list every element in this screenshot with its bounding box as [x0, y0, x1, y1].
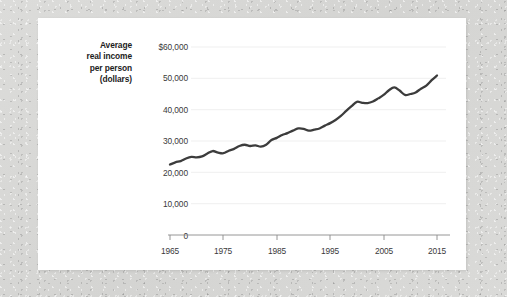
income-line-series [170, 76, 437, 165]
chart-card: Average real income per person (dollars)… [38, 18, 466, 270]
line-chart-plot [38, 18, 466, 270]
gridlines [191, 47, 446, 204]
x-axis-ticks [170, 235, 437, 240]
